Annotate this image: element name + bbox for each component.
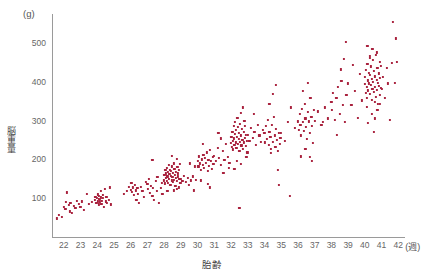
scatter-point [152, 187, 154, 189]
scatter-point [94, 196, 96, 198]
scatter-point [377, 72, 379, 74]
scatter-point [56, 217, 58, 219]
scatter-point [210, 160, 212, 162]
scatter-point [371, 88, 373, 90]
scatter-point [201, 164, 203, 166]
scatter-point [288, 195, 290, 197]
scatter-point [376, 89, 378, 91]
scatter-point [197, 165, 199, 167]
scatter-point [238, 132, 240, 134]
scatter-point [263, 132, 265, 134]
scatter-point [240, 144, 242, 146]
scatter-point [78, 203, 80, 205]
scatter-point [238, 206, 240, 208]
x-axis-title: 胎齢 [0, 257, 423, 271]
scatter-point [260, 141, 262, 143]
scatter-point [244, 137, 246, 139]
y-tick-label-300: 300 [0, 116, 46, 126]
scatter-point [235, 141, 237, 143]
scatter-point [380, 87, 382, 89]
scatter-point [160, 187, 162, 189]
scatter-point [164, 169, 166, 171]
scatter-point [278, 184, 280, 186]
x-tick-label-38: 38 [327, 240, 336, 250]
scatter-point [367, 71, 369, 73]
y-tick-label-200: 200 [0, 154, 46, 164]
scatter-point [227, 156, 229, 158]
scatter-point [212, 156, 214, 158]
scatter-point [58, 213, 60, 215]
scatter-point [375, 51, 377, 53]
scatter-point [372, 81, 374, 83]
scatter-point [79, 206, 81, 208]
scatter-point [231, 130, 233, 132]
x-tick-label-41: 41 [377, 240, 386, 250]
scatter-point [218, 157, 220, 159]
scatter-point [175, 171, 177, 173]
scatter-point [94, 199, 96, 201]
scatter-point [105, 196, 107, 198]
scatter-point [233, 168, 235, 170]
scatter-point [268, 102, 270, 104]
scatter-point [336, 134, 338, 136]
scatter-point [365, 92, 367, 94]
scatter-point [232, 125, 234, 127]
scatter-point [97, 193, 99, 195]
scatter-point [81, 200, 83, 202]
scatter-point [151, 195, 153, 197]
scatter-point [206, 183, 208, 185]
scatter-point [370, 113, 372, 115]
y-axis-title: 脳重量 [6, 125, 15, 152]
scatter-point [371, 48, 373, 50]
x-tick-label-39: 39 [343, 240, 352, 250]
scatter-point [173, 168, 175, 170]
scatter-point [235, 147, 237, 149]
scatter-point [102, 197, 104, 199]
x-tick-label-29: 29 [176, 240, 185, 250]
scatter-point [350, 104, 352, 106]
scatter-point [165, 172, 167, 174]
scatter-point [170, 170, 172, 172]
scatter-point [143, 196, 145, 198]
x-tick-label-27: 27 [143, 240, 152, 250]
scatter-point [228, 161, 230, 163]
scatter-point [109, 186, 111, 188]
scatter-point [202, 154, 204, 156]
scatter-point [151, 159, 153, 161]
scatter-point [150, 185, 152, 187]
scatter-point [354, 90, 356, 92]
scatter-point [370, 65, 372, 67]
scatter-point [68, 210, 70, 212]
scatter-point [95, 202, 97, 204]
scatter-point [237, 143, 239, 145]
scatter-point [278, 143, 280, 145]
scatter-point [374, 117, 376, 119]
scatter-point [173, 179, 175, 181]
x-axis-unit-label: (週) [405, 240, 420, 253]
scatter-point [302, 90, 304, 92]
scatter-point [257, 123, 259, 125]
scatter-point [69, 202, 71, 204]
scatter-point [392, 21, 394, 23]
scatter-point [147, 188, 149, 190]
scatter-point [244, 125, 246, 127]
scatter-point [389, 119, 391, 121]
scatter-point [74, 207, 76, 209]
scatter-point [267, 119, 269, 121]
scatter-point [177, 172, 179, 174]
scatter-point [183, 175, 185, 177]
scatter-point [367, 89, 369, 91]
scatter-point [242, 106, 244, 108]
scatter-point [364, 76, 366, 78]
scatter-point [367, 79, 369, 81]
scatter-point [247, 134, 249, 136]
scatter-point [327, 117, 329, 119]
scatter-point [135, 199, 137, 201]
scatter-point [305, 126, 307, 128]
scatter-point [186, 177, 188, 179]
scatter-point [173, 162, 175, 164]
scatter-point [191, 175, 193, 177]
scatter-point [156, 176, 158, 178]
scatter-point [275, 84, 277, 86]
scatter-point [64, 208, 66, 210]
